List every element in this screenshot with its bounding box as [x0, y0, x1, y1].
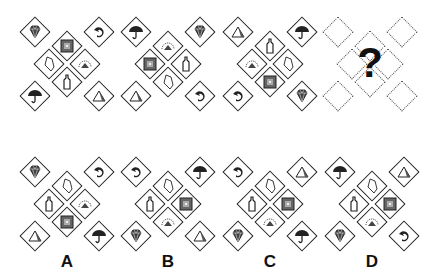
sequence-figure-3 [220, 14, 320, 114]
corner-tl-tile [322, 16, 353, 47]
arc-icon [157, 211, 179, 233]
swirl-icon [227, 161, 249, 183]
umbrella-icon [88, 225, 110, 247]
pyramid-icon [125, 85, 147, 107]
umbrella-icon [291, 21, 313, 43]
sequence-figure-1 [17, 14, 117, 114]
swirl-icon [88, 161, 110, 183]
option-d[interactable] [322, 154, 422, 254]
pyramid-icon [189, 225, 211, 247]
umbrella-icon [291, 225, 313, 247]
umbrella-icon [189, 161, 211, 183]
swirl-icon [88, 21, 110, 43]
umbrella-icon [24, 85, 46, 107]
option-label-b[interactable]: B [158, 252, 178, 272]
corner-tr-tile [386, 16, 417, 47]
pyramid-icon [393, 161, 415, 183]
diamond-icon [24, 161, 46, 183]
diamond-icon [189, 21, 211, 43]
corner-br-tile [386, 80, 417, 111]
diamond-icon [227, 225, 249, 247]
pyramid-icon [227, 21, 249, 43]
kite-icon [157, 71, 179, 93]
question-mark: ? [357, 38, 383, 88]
diamond-icon [329, 225, 351, 247]
pyramid-icon [291, 161, 313, 183]
pyramid-icon [24, 225, 46, 247]
square-icon [259, 71, 281, 93]
pyramid-icon [88, 85, 110, 107]
swirl-icon [227, 85, 249, 107]
bottle-icon [56, 71, 78, 93]
option-label-a[interactable]: A [57, 252, 77, 272]
swirl-icon [393, 225, 415, 247]
missing-figure: ? [320, 14, 420, 114]
arc-icon [259, 211, 281, 233]
sequence-figure-2 [118, 14, 218, 114]
option-b[interactable] [118, 154, 218, 254]
option-label-d[interactable]: D [362, 252, 382, 272]
umbrella-icon [329, 161, 351, 183]
arc-icon [361, 211, 383, 233]
option-a[interactable] [17, 154, 117, 254]
diamond-icon [24, 21, 46, 43]
swirl-icon [125, 161, 147, 183]
umbrella-icon [125, 21, 147, 43]
square-icon [56, 211, 78, 233]
option-c[interactable] [220, 154, 320, 254]
diamond-icon [291, 85, 313, 107]
swirl-icon [189, 85, 211, 107]
corner-bl-tile [322, 80, 353, 111]
diamond-icon [125, 225, 147, 247]
option-label-c[interactable]: C [260, 252, 280, 272]
